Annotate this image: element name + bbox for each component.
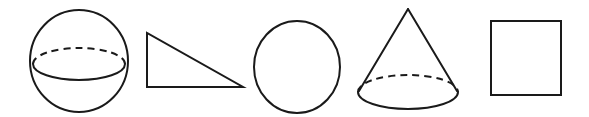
shapes-svg-canvas bbox=[0, 0, 589, 117]
circle-outline bbox=[254, 21, 340, 113]
sphere-equator-front-arc bbox=[33, 64, 125, 80]
shape-cone bbox=[358, 9, 458, 109]
cone-base-front-arc bbox=[358, 92, 458, 109]
cone-left-slant-edge bbox=[359, 9, 408, 91]
shape-right-triangle bbox=[147, 33, 243, 87]
shape-sphere bbox=[30, 10, 128, 112]
cone-base-back-arc bbox=[358, 75, 458, 92]
shapes-figure bbox=[0, 0, 589, 117]
sphere-outline-circle bbox=[30, 10, 128, 112]
shape-square bbox=[491, 21, 561, 95]
square-outline bbox=[491, 21, 561, 95]
cone-right-slant-edge bbox=[408, 9, 457, 91]
right-triangle-outline bbox=[147, 33, 243, 87]
sphere-equator-back-arc bbox=[33, 48, 125, 64]
shape-circle bbox=[254, 21, 340, 113]
